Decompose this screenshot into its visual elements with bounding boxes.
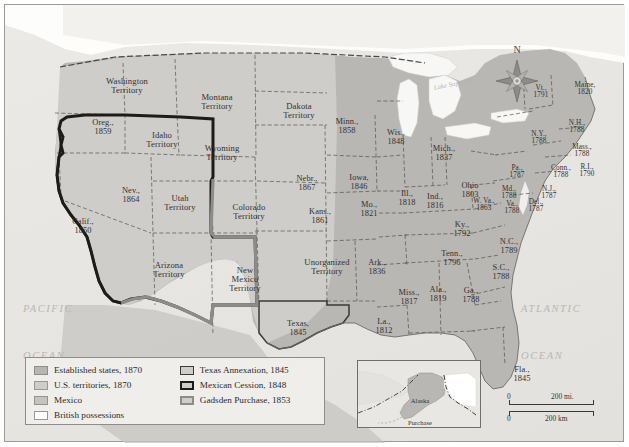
scale-bar-km [509, 411, 593, 412]
map-scale-bars: 0 200 mi. 0 200 km [505, 392, 601, 422]
legend-column-right: Texas Annexation, 1845 Mexican Cession, … [180, 364, 316, 424]
compass-rose-icon [494, 58, 540, 104]
legend-item-texas-annexation: Texas Annexation, 1845 [180, 364, 316, 376]
legend-swatch-british-possessions [34, 411, 48, 420]
alaska-purchase-label: Alaska Purchase [392, 383, 448, 428]
legend-label-gadsden-purchase: Gadsden Purchase, 1853 [200, 395, 291, 405]
scale-km-zero: 0 [507, 414, 511, 423]
us-territories-area [55, 53, 337, 343]
legend-item-gadsden-purchase: Gadsden Purchase, 1853 [180, 394, 316, 406]
legend-label-mexico: Mexico [54, 395, 82, 405]
compass-north-label: N [494, 44, 540, 55]
scale-bar-miles [509, 404, 593, 405]
scale-km-value: 200 km [545, 414, 567, 423]
scale-tick-miles-end [593, 400, 594, 405]
legend-item-territories: U.S. territories, 1870 [34, 379, 176, 391]
legend-label-established-states: Established states, 1870 [54, 365, 142, 375]
legend-label-texas-annexation: Texas Annexation, 1845 [200, 365, 289, 375]
map-legend: Established states, 1870 U.S. territorie… [25, 357, 325, 425]
legend-swatch-mexico [34, 396, 48, 405]
scale-miles-value: 200 mi. [551, 392, 574, 401]
scale-tick-km-end [593, 411, 594, 416]
legend-label-mexican-cession: Mexican Cession, 1848 [200, 380, 287, 390]
legend-column-left: Established states, 1870 U.S. territorie… [34, 364, 176, 424]
legend-label-british-possessions: British possessions [54, 410, 124, 420]
legend-swatch-texas-annexation [180, 366, 194, 375]
scale-tick-miles-start [509, 400, 510, 405]
legend-item-mexico: Mexico [34, 394, 176, 406]
legend-item-established: Established states, 1870 [34, 364, 176, 376]
legend-item-mexican-cession: Mexican Cession, 1848 [180, 379, 316, 391]
legend-swatch-established-states [34, 366, 48, 375]
alaska-purchase-inset: Alaska Purchase [357, 360, 481, 428]
legend-swatch-gadsden-purchase [180, 396, 194, 405]
legend-swatch-us-territories [34, 381, 48, 390]
compass-rose: N [494, 46, 540, 104]
alaska-label-line1: Alaska [392, 397, 448, 404]
legend-item-british: British possessions [34, 409, 176, 421]
map-frame: PACIFIC OCEAN ATLANTIC OCEAN Lake Superi… [4, 4, 624, 442]
alaska-label-line2: Purchase [392, 419, 448, 426]
historical-map-figure: PACIFIC OCEAN ATLANTIC OCEAN Lake Superi… [0, 0, 629, 447]
legend-swatch-mexican-cession [180, 381, 194, 390]
legend-label-us-territories: U.S. territories, 1870 [54, 380, 131, 390]
